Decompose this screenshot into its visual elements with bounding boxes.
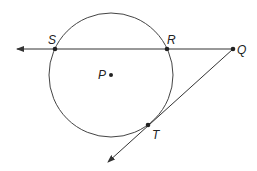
- label-t: T: [152, 128, 161, 142]
- label-q: Q: [237, 43, 246, 57]
- label-p: P: [98, 68, 106, 82]
- label-r: R: [167, 33, 176, 47]
- point-t: [146, 123, 151, 128]
- point-p: [109, 73, 113, 77]
- label-s: S: [48, 33, 56, 47]
- point-r: [165, 47, 170, 52]
- geometry-diagram: S R Q P T: [0, 0, 257, 171]
- point-q: [231, 47, 236, 52]
- tangent-line-qt: [108, 49, 233, 162]
- point-s: [53, 47, 58, 52]
